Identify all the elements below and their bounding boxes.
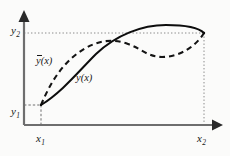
variational-curves-figure: y2 y1 x1 x2 y(x) y(x) xyxy=(0,0,230,156)
start-endpoint-marker xyxy=(40,104,42,106)
x1-tick-label: x1 xyxy=(36,133,45,144)
true-curve-y xyxy=(41,25,204,105)
y1-tick-label: y1 xyxy=(11,106,20,117)
end-endpoint-marker xyxy=(203,32,205,34)
overbar-accent xyxy=(37,55,43,56)
horizontal-axis-arrowhead xyxy=(212,120,223,131)
trial-curve-ybar xyxy=(41,33,204,105)
vertical-axis-arrowhead xyxy=(19,10,30,22)
y2-tick-label: y2 xyxy=(11,25,20,36)
true-curve-label: y(x) xyxy=(76,73,92,84)
x2-tick-label: x2 xyxy=(197,133,206,144)
trial-curve-label: y(x) xyxy=(36,56,52,67)
plot-canvas xyxy=(0,0,230,156)
